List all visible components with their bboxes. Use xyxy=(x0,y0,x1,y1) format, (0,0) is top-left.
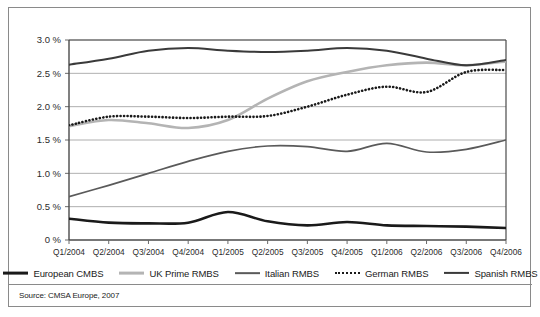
y-axis-tick-label: 2.0 % xyxy=(37,101,62,112)
x-axis-tick-label: Q1/2004 xyxy=(53,247,85,257)
x-axis-tick-label: Q2/2004 xyxy=(93,247,125,257)
figure-frame: 3.0 %2.5 %2.0 %1.5 %1.0 %0.5 %0 %Q1/2004… xyxy=(8,7,531,307)
x-axis-tick-label: Q1/2005 xyxy=(212,247,244,257)
x-axis-tick-label: Q2/2006 xyxy=(411,247,443,257)
legend-label-european-cmbs: European CMBS xyxy=(33,268,103,279)
y-axis-tick-label: 0 % xyxy=(45,234,62,245)
source-divider xyxy=(9,284,532,285)
x-axis-tick-label: Q4/2004 xyxy=(172,247,204,257)
y-axis-tick-label: 1.5 % xyxy=(37,134,62,145)
legend-item-spanish-rmbs[interactable]: Spanish RMBS xyxy=(444,268,537,279)
legend-swatch-italian-rmbs xyxy=(235,268,260,278)
series-line xyxy=(69,70,506,126)
series-line xyxy=(69,140,506,197)
legend-swatch-uk-prime-rmbs xyxy=(119,268,144,278)
legend-swatch-spanish-rmbs xyxy=(444,268,469,278)
legend-item-italian-rmbs[interactable]: Italian RMBS xyxy=(235,268,319,279)
chart-legend: European CMBS UK Prime RMBS Italian RMBS… xyxy=(9,262,532,284)
y-axis-tick-label: 0.5 % xyxy=(37,201,62,212)
x-axis-tick-label: Q2/2005 xyxy=(252,247,284,257)
line-chart: 3.0 %2.5 %2.0 %1.5 %1.0 %0.5 %0 %Q1/2004… xyxy=(9,8,532,265)
source-note: Source: CMSA Europe, 2007 xyxy=(19,291,119,300)
x-axis-tick-label: Q3/2006 xyxy=(450,247,482,257)
legend-item-european-cmbs[interactable]: European CMBS xyxy=(3,268,103,279)
legend-label-german-rmbs: German RMBS xyxy=(365,268,428,279)
legend-item-uk-prime-rmbs[interactable]: UK Prime RMBS xyxy=(119,268,218,279)
x-axis-tick-label: Q3/2005 xyxy=(291,247,323,257)
chart-figure: 3.0 %2.5 %2.0 %1.5 %1.0 %0.5 %0 %Q1/2004… xyxy=(0,0,540,317)
legend-label-uk-prime-rmbs: UK Prime RMBS xyxy=(149,268,218,279)
x-axis-tick-label: Q1/2006 xyxy=(371,247,403,257)
x-axis-tick-label: Q3/2004 xyxy=(133,247,165,257)
x-axis-tick-label: Q4/2006 xyxy=(490,247,522,257)
legend-swatch-german-rmbs xyxy=(335,268,360,278)
y-axis-tick-label: 2.5 % xyxy=(37,68,62,79)
chart-plot-area: 3.0 %2.5 %2.0 %1.5 %1.0 %0.5 %0 %Q1/2004… xyxy=(9,8,532,265)
y-axis-tick-label: 3.0 % xyxy=(37,34,62,45)
legend-item-german-rmbs[interactable]: German RMBS xyxy=(335,268,428,279)
y-axis-tick-label: 1.0 % xyxy=(37,168,62,179)
series-line xyxy=(69,61,506,128)
legend-label-spanish-rmbs: Spanish RMBS xyxy=(474,268,537,279)
series-line xyxy=(69,212,506,228)
x-axis-tick-label: Q4/2005 xyxy=(331,247,363,257)
legend-swatch-european-cmbs xyxy=(3,268,28,278)
legend-label-italian-rmbs: Italian RMBS xyxy=(265,268,319,279)
